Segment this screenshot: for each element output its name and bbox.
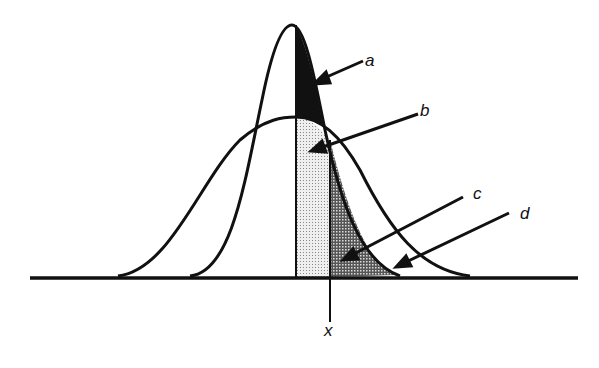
arrow-a bbox=[314, 61, 363, 84]
label-d: d bbox=[520, 205, 529, 222]
distributions-figure bbox=[0, 0, 599, 368]
label-c: c bbox=[473, 185, 482, 202]
region-a bbox=[296, 27, 323, 125]
wide-distribution-curve bbox=[118, 117, 470, 276]
arrow-c bbox=[343, 197, 463, 260]
label-b: b bbox=[420, 102, 429, 119]
region-b bbox=[296, 117, 330, 277]
region-c bbox=[330, 140, 395, 277]
label-x: x bbox=[324, 322, 333, 339]
diagram: a b c d x bbox=[0, 0, 599, 368]
label-a: a bbox=[365, 52, 374, 69]
arrow-d bbox=[396, 213, 509, 267]
